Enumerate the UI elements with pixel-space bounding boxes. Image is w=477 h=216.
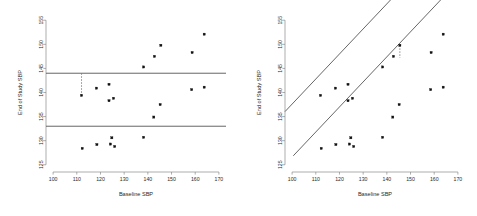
- x-tick-label: 110: [73, 176, 81, 182]
- x-tick-label: 120: [96, 176, 105, 182]
- chart-panel-right: 1001101201301401501601701251301351401451…: [239, 0, 477, 216]
- y-tick-label: 155: [277, 16, 283, 25]
- x-tick-label: 140: [144, 176, 153, 182]
- data-point: [442, 33, 444, 35]
- y-tick-label: 125: [38, 160, 44, 169]
- data-point: [109, 143, 111, 145]
- x-tick-label: 160: [430, 176, 439, 182]
- data-point: [96, 143, 98, 145]
- y-axis-title: End of Study SBP: [256, 70, 262, 115]
- data-point: [191, 89, 193, 91]
- data-point: [112, 97, 114, 99]
- data-point: [430, 89, 432, 91]
- y-tick-label: 135: [277, 112, 283, 121]
- data-point: [95, 87, 97, 89]
- data-point: [203, 86, 205, 88]
- data-point: [392, 116, 394, 118]
- data-point: [153, 116, 155, 118]
- y-tick-label: 155: [38, 16, 44, 25]
- y-tick-label: 125: [277, 160, 283, 169]
- data-point: [381, 66, 383, 68]
- data-point: [111, 137, 113, 139]
- y-tick-label: 150: [277, 40, 283, 49]
- scatter-plot-left: 1001101201301401501601701251301351401451…: [0, 0, 238, 216]
- y-tick-label: 150: [38, 40, 44, 49]
- data-point: [320, 147, 322, 149]
- data-point: [153, 55, 155, 57]
- y-tick-label: 140: [277, 88, 283, 97]
- x-tick-label: 150: [406, 176, 415, 182]
- data-point: [442, 86, 444, 88]
- data-point: [81, 147, 83, 149]
- x-tick-label: 100: [288, 176, 297, 182]
- x-tick-label: 130: [359, 176, 368, 182]
- y-tick-label: 130: [38, 136, 44, 145]
- figure-container: 1001101201301401501601701251301351401451…: [0, 0, 477, 216]
- y-tick-label: 130: [277, 136, 283, 145]
- x-tick-label: 100: [49, 176, 58, 182]
- data-point: [191, 51, 193, 53]
- x-axis-title: Baseline SBP: [119, 191, 153, 197]
- data-point: [203, 33, 205, 35]
- data-point: [347, 100, 349, 102]
- data-point: [159, 103, 161, 105]
- data-point: [319, 94, 321, 96]
- data-point: [334, 87, 336, 89]
- x-tick-label: 170: [454, 176, 463, 182]
- data-point: [347, 83, 349, 85]
- x-tick-label: 150: [167, 176, 176, 182]
- data-point: [351, 97, 353, 99]
- y-tick-label: 140: [38, 88, 44, 97]
- data-point: [114, 145, 116, 147]
- data-point: [398, 103, 400, 105]
- lower-regression-line: [293, 0, 465, 156]
- data-point: [142, 66, 144, 68]
- y-tick-label: 145: [277, 64, 283, 73]
- x-tick-label: 110: [312, 176, 320, 182]
- x-tick-label: 140: [383, 176, 392, 182]
- chart-panel-left: 1001101201301401501601701251301351401451…: [0, 0, 238, 216]
- x-tick-label: 120: [335, 176, 344, 182]
- y-tick-label: 135: [38, 112, 44, 121]
- data-point: [353, 145, 355, 147]
- data-point: [108, 83, 110, 85]
- x-tick-label: 130: [120, 176, 129, 182]
- data-point: [80, 94, 82, 96]
- data-point: [160, 44, 162, 46]
- data-point: [335, 143, 337, 145]
- upper-regression-line: [285, 0, 459, 112]
- x-tick-label: 170: [215, 176, 224, 182]
- data-point: [348, 143, 350, 145]
- x-axis-title: Baseline SBP: [358, 191, 392, 197]
- data-point: [142, 136, 144, 138]
- data-point: [392, 55, 394, 57]
- scatter-plot-right: 1001101201301401501601701251301351401451…: [239, 0, 477, 216]
- y-tick-label: 145: [38, 64, 44, 73]
- data-point: [381, 136, 383, 138]
- x-tick-label: 160: [191, 176, 200, 182]
- data-point: [430, 51, 432, 53]
- data-point: [399, 44, 401, 46]
- data-point: [350, 137, 352, 139]
- y-axis-title: End of Study SBP: [17, 70, 23, 115]
- data-point: [108, 100, 110, 102]
